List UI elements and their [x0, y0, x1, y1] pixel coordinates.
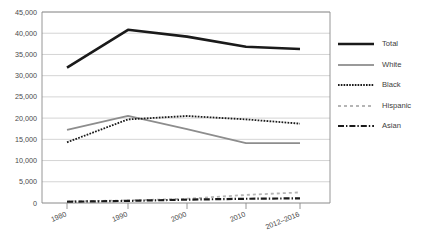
y-axis-tick-label: 10,000: [15, 156, 37, 165]
chart-legend: Total White Black Hispanic Asian: [336, 36, 426, 140]
x-axis-tick-label: 2012–2016: [264, 210, 301, 232]
y-axis-tick-label: 0: [33, 199, 37, 208]
x-axis-tick-label: 1980: [50, 210, 68, 224]
series-line-total: [67, 30, 300, 68]
legend-swatch-hispanic: [336, 100, 376, 112]
y-axis-tick-label: 35,000: [15, 50, 37, 59]
legend-item-hispanic[interactable]: Hispanic: [336, 98, 426, 119]
y-axis-tick-label: 30,000: [15, 71, 37, 80]
legend-label-white: White: [382, 61, 401, 69]
x-axis-tick-label: 2000: [170, 210, 188, 224]
line-chart: 05,00010,00015,00020,00025,00030,00035,0…: [0, 0, 426, 236]
legend-item-black[interactable]: Black: [336, 77, 426, 98]
x-axis-tick-label: 1990: [111, 210, 129, 224]
legend-swatch-white: [336, 59, 376, 71]
legend-swatch-total: [336, 38, 376, 50]
x-axis-tick-label: 2010: [229, 210, 247, 224]
legend-item-asian[interactable]: Asian: [336, 118, 426, 139]
legend-label-total: Total: [382, 40, 398, 48]
legend-label-black: Black: [382, 81, 401, 89]
y-axis-tick-label: 25,000: [15, 92, 37, 101]
y-axis-tick-label: 40,000: [15, 29, 37, 38]
legend-label-asian: Asian: [382, 122, 401, 130]
legend-item-white[interactable]: White: [336, 57, 426, 78]
legend-label-hispanic: Hispanic: [382, 102, 411, 110]
legend-item-total[interactable]: Total: [336, 36, 426, 57]
y-axis-tick-label: 20,000: [15, 114, 37, 123]
legend-swatch-black: [336, 79, 376, 91]
series-line-asian: [67, 198, 300, 201]
y-axis-tick-label: 45,000: [15, 8, 37, 17]
y-axis-tick-label: 15,000: [15, 135, 37, 144]
y-axis-tick-label: 5,000: [19, 177, 37, 186]
legend-swatch-asian: [336, 120, 376, 132]
